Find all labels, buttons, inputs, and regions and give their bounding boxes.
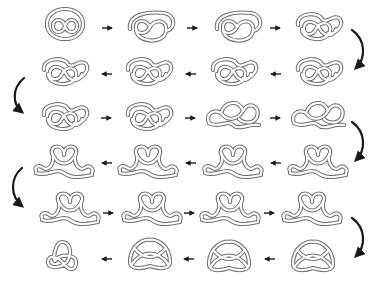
curved-arrow-down (13, 168, 22, 206)
knot-12 (293, 103, 344, 127)
knot-7 (213, 59, 256, 84)
knot-15 (204, 147, 261, 178)
curved-arrow-down (352, 122, 363, 160)
knot-3 (217, 13, 260, 41)
knot-8 (298, 59, 341, 84)
knot-6 (128, 59, 171, 84)
knot-2 (130, 13, 173, 41)
knot-9 (44, 104, 87, 129)
knot-deformation-diagram (0, 0, 375, 288)
knot-16 (289, 147, 346, 178)
knot-10 (128, 104, 171, 129)
knot-19 (201, 194, 258, 225)
knot-21-trefoil (48, 242, 76, 269)
knot-17 (41, 194, 98, 225)
knot-22 (130, 240, 170, 268)
knot-20 (283, 194, 340, 225)
curved-arrow-down (352, 218, 363, 256)
knot-1 (47, 9, 83, 39)
knot-14 (119, 147, 176, 178)
diagram-canvas (0, 0, 375, 288)
knot-11 (208, 103, 259, 127)
knot-5 (44, 59, 87, 84)
knot-4 (298, 14, 341, 39)
curved-arrow-down (352, 30, 363, 68)
knot-18 (123, 194, 180, 225)
knot-24 (293, 242, 333, 270)
curved-arrow-down (15, 78, 24, 112)
knot-23 (209, 242, 249, 270)
knot-13 (35, 147, 92, 178)
